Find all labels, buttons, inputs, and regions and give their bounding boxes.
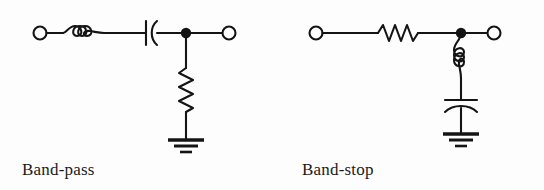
ground-symbol [168, 140, 204, 152]
caption-band-stop: Band-stop [302, 160, 374, 180]
inductor-symbol [454, 33, 464, 78]
band-pass-circuit-diagram [0, 0, 272, 160]
caption-band-pass: Band-pass [22, 160, 95, 180]
ground-symbol [443, 134, 479, 146]
input-terminal-icon [310, 27, 323, 40]
resistor-symbol [378, 25, 418, 41]
output-terminal-icon [488, 27, 501, 40]
resistor-symbol [179, 68, 193, 112]
band-stop-circuit-diagram [272, 0, 544, 160]
filter-circuits-figure: Band-pass Band-stop [0, 0, 544, 190]
input-terminal-icon [34, 27, 47, 40]
inductor-symbol [63, 26, 104, 36]
output-terminal-icon [223, 27, 236, 40]
